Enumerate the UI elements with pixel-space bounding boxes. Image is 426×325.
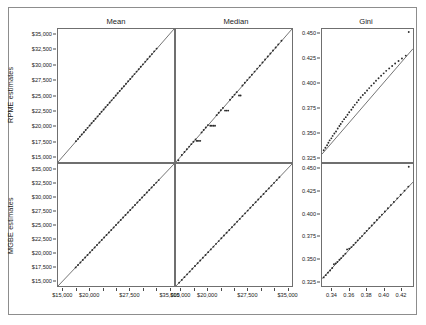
data-point (153, 184, 155, 186)
data-point (205, 127, 207, 129)
scatter-canvas (322, 29, 413, 162)
data-point (326, 144, 328, 146)
data-point (256, 68, 258, 70)
data-point (249, 207, 251, 209)
data-point (186, 273, 188, 275)
data-point (177, 159, 179, 161)
data-point (91, 122, 93, 124)
scatter-canvas (58, 29, 174, 162)
data-point (109, 102, 111, 104)
data-point (259, 65, 261, 67)
data-point (228, 229, 230, 231)
data-point (192, 141, 194, 143)
ytick-label-money: $35,000 (18, 166, 52, 172)
data-point (144, 61, 146, 63)
data-point (336, 261, 338, 263)
data-point (129, 78, 131, 80)
data-point (108, 232, 110, 234)
data-point (127, 212, 129, 214)
data-point (121, 88, 123, 90)
xtick-label-money: $27,500 (119, 292, 139, 298)
xtick-label-money: $15,000 (170, 292, 190, 298)
data-point (120, 219, 122, 221)
data-point (362, 94, 364, 96)
data-point (276, 179, 278, 181)
data-point (132, 207, 134, 209)
data-point (263, 193, 265, 195)
xtick-mark-gini (366, 288, 367, 291)
xtick-mark-money (247, 288, 248, 291)
xtick-mark-money (156, 288, 157, 291)
xtick-mark-money (221, 288, 222, 291)
data-point (364, 232, 366, 234)
ytick-label-money: $30,000 (18, 62, 52, 68)
data-point (355, 242, 357, 244)
data-point (241, 85, 243, 87)
data-point (260, 196, 262, 198)
data-point (94, 118, 96, 120)
data-point (404, 190, 406, 192)
data-point (153, 50, 155, 52)
data-point (220, 109, 222, 111)
ytick-mark-money (53, 64, 56, 65)
ytick-label-money: $20,000 (18, 123, 52, 129)
data-point (323, 149, 325, 151)
data-point (340, 257, 342, 259)
data-point (244, 212, 246, 214)
xtick-mark-money (143, 288, 144, 291)
xtick-label-gini: 0.34 (326, 292, 337, 298)
data-point (87, 127, 89, 129)
ytick-mark-gini (317, 108, 320, 109)
ytick-label-money: $20,000 (18, 250, 52, 256)
panel-mgbe-gini[interactable] (321, 163, 414, 287)
xtick-label-money: $20,000 (79, 292, 99, 298)
data-point (344, 253, 346, 255)
data-point (331, 267, 333, 269)
panel-rpme-gini[interactable] (321, 28, 414, 163)
scatter-canvas (176, 164, 292, 286)
data-point (381, 214, 383, 216)
scatter-canvas (58, 164, 174, 286)
data-point (149, 56, 151, 58)
data-point (240, 95, 242, 97)
data-point (77, 264, 79, 266)
data-point (83, 131, 85, 133)
data-point (98, 242, 100, 244)
data-point (327, 272, 329, 274)
data-point (111, 99, 113, 101)
data-point (384, 210, 386, 212)
data-point (129, 209, 131, 211)
xtick-mark-money (76, 288, 77, 291)
ytick-label-money: $22,500 (18, 108, 52, 114)
xtick-mark-money (103, 288, 104, 291)
data-point (84, 256, 86, 258)
data-point (337, 128, 339, 130)
data-point (375, 80, 377, 82)
data-point (101, 239, 103, 241)
xtick-mark-money (234, 288, 235, 291)
data-point (210, 248, 212, 250)
data-point (342, 255, 344, 257)
panel-rpme-median[interactable] (175, 28, 293, 163)
data-point (139, 199, 141, 201)
data-point (75, 140, 77, 142)
data-point (142, 63, 144, 65)
data-point (277, 43, 279, 45)
data-point (241, 215, 243, 217)
panel-rpme-mean[interactable] (57, 28, 175, 163)
data-point (396, 197, 398, 199)
data-point (352, 106, 354, 108)
ytick-mark-gini (317, 259, 320, 260)
panel-mgbe-mean[interactable] (57, 163, 175, 287)
data-point (183, 151, 185, 153)
data-point (350, 246, 352, 248)
data-point (123, 85, 125, 87)
ytick-label-money: $25,000 (18, 222, 52, 228)
panel-mgbe-median[interactable] (175, 163, 293, 287)
data-point (91, 249, 93, 251)
data-point (110, 229, 112, 231)
ytick-mark-gini (317, 158, 320, 159)
data-point (105, 106, 107, 108)
data-point (343, 118, 345, 120)
data-point (151, 53, 153, 55)
